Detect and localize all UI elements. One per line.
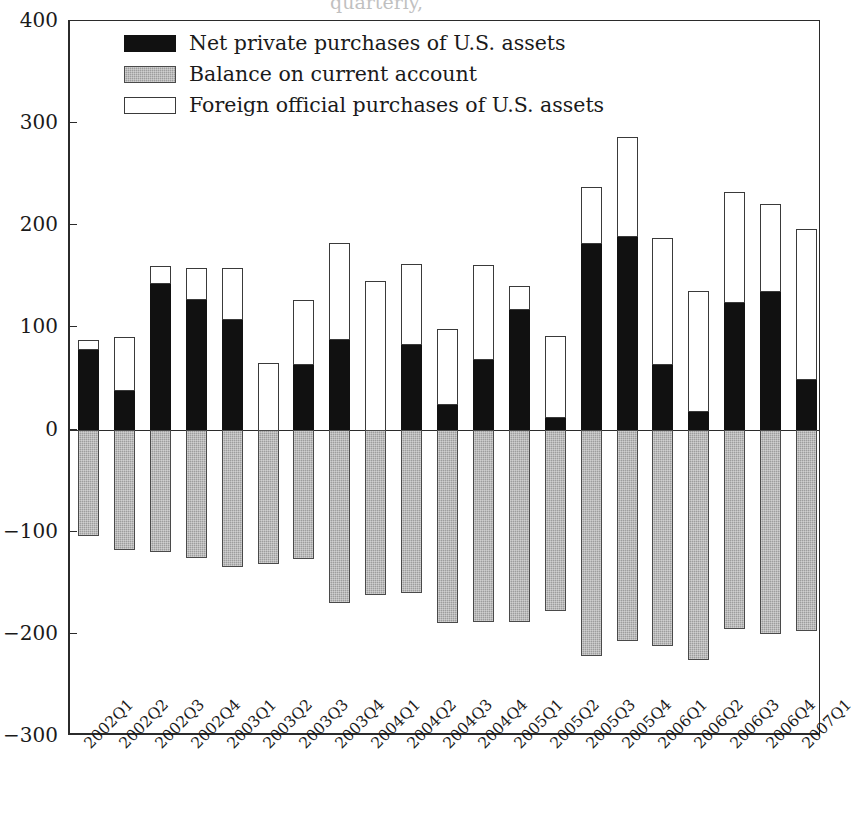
bar-segment-net-private: [150, 284, 171, 430]
legend-label: Net private purchases of U.S. assets: [189, 33, 566, 54]
bar-group: [293, 21, 314, 733]
bar-segment-current-account: [724, 430, 745, 629]
bar-segment-foreign-official: [293, 300, 314, 365]
bar-group: [401, 21, 422, 733]
bar-segment-net-private: [329, 340, 350, 430]
bar-segment-current-account: [581, 430, 602, 657]
bar-group: [78, 21, 99, 733]
white-outlined-swatch: [124, 97, 176, 114]
bar-segment-current-account: [473, 430, 494, 622]
y-tick-label: 400: [0, 10, 58, 30]
bar-segment-current-account: [186, 430, 207, 559]
bar-group: [329, 21, 350, 733]
bar-segment-current-account: [796, 430, 817, 631]
bar-segment-current-account: [437, 430, 458, 623]
bar-group: [688, 21, 709, 733]
plot-area: [68, 20, 820, 735]
bar-segment-foreign-official: [796, 229, 817, 379]
bar-segment-foreign-official: [78, 340, 99, 350]
bar-group: [150, 21, 171, 733]
bar-segment-net-private: [760, 292, 781, 430]
bar-segment-net-private: [473, 360, 494, 429]
bar-segment-net-private: [509, 310, 530, 430]
bar-segment-net-private: [581, 244, 602, 430]
bar-segment-foreign-official: [581, 187, 602, 243]
bar-segment-net-private: [78, 350, 99, 430]
bar-segment-net-private: [186, 300, 207, 430]
bar-segment-net-private: [652, 365, 673, 429]
bar-segment-current-account: [545, 430, 566, 612]
bar-segment-foreign-official: [473, 265, 494, 360]
bar-group: [509, 21, 530, 733]
bar-group: [617, 21, 638, 733]
bar-segment-current-account: [401, 430, 422, 593]
y-tick-label: 300: [0, 112, 58, 132]
y-tick-label: −100: [0, 521, 58, 541]
bar-segment-net-private: [437, 405, 458, 430]
black-filled-swatch: [124, 35, 176, 52]
bar-segment-net-private: [114, 391, 135, 430]
bar-segment-net-private: [617, 237, 638, 430]
bar-segment-current-account: [652, 430, 673, 647]
bar-segment-net-private: [293, 365, 314, 429]
legend-item-current-account: Balance on current account: [124, 59, 554, 90]
bar-group: [724, 21, 745, 733]
bar-segment-foreign-official: [401, 264, 422, 345]
bar-segment-current-account: [150, 430, 171, 553]
bar-segment-foreign-official: [329, 243, 350, 340]
bar-segment-foreign-official: [545, 336, 566, 419]
bar-group: [365, 21, 386, 733]
bar-group: [760, 21, 781, 733]
bar-segment-current-account: [365, 430, 386, 595]
bar-segment-current-account: [617, 430, 638, 641]
y-tick-label: 200: [0, 214, 58, 234]
bar-segment-net-private: [545, 418, 566, 429]
bar-group: [796, 21, 817, 733]
bar-segment-current-account: [329, 430, 350, 604]
bar-segment-foreign-official: [688, 291, 709, 413]
legend-item-foreign-official: Foreign official purchases of U.S. asset…: [124, 90, 554, 121]
bar-segment-current-account: [293, 430, 314, 560]
bar-segment-current-account: [258, 430, 279, 565]
bar-segment-foreign-official: [258, 363, 279, 435]
bar-segment-current-account: [688, 430, 709, 661]
bar-segment-net-private: [401, 345, 422, 430]
bar-segment-foreign-official: [617, 137, 638, 236]
y-tick-label: 100: [0, 316, 58, 336]
bar-segment-foreign-official: [437, 329, 458, 405]
bar-segment-net-private: [796, 380, 817, 430]
bar-group: [437, 21, 458, 733]
bar-segment-net-private: [724, 303, 745, 430]
bar-group: [258, 21, 279, 733]
bar-group: [581, 21, 602, 733]
bar-group: [114, 21, 135, 733]
gray-hatched-swatch: [124, 66, 176, 83]
y-tick-label: −300: [0, 725, 58, 745]
bar-segment-current-account: [114, 430, 135, 551]
bar-group: [473, 21, 494, 733]
bar-segment-current-account: [222, 430, 243, 568]
bar-segment-net-private: [688, 412, 709, 429]
bar-segment-foreign-official: [760, 204, 781, 292]
bar-segment-foreign-official: [114, 337, 135, 391]
legend-label: Foreign official purchases of U.S. asset…: [189, 95, 604, 116]
chart-legend: Net private purchases of U.S. assets Bal…: [124, 28, 554, 121]
bar-group: [222, 21, 243, 733]
bar-group: [186, 21, 207, 733]
legend-item-net-private: Net private purchases of U.S. assets: [124, 28, 554, 59]
bar-group: [545, 21, 566, 733]
bar-segment-net-private: [222, 320, 243, 429]
bar-segment-current-account: [760, 430, 781, 634]
y-tick-label: −200: [0, 623, 58, 643]
bar-segment-foreign-official: [186, 268, 207, 300]
clipped-title-remnant: quarterly,: [330, 0, 423, 13]
bar-group: [652, 21, 673, 733]
bar-segment-foreign-official: [509, 286, 530, 311]
bar-segment-current-account: [78, 430, 99, 536]
legend-label: Balance on current account: [189, 64, 477, 85]
bar-segment-current-account: [509, 430, 530, 622]
bar-segment-foreign-official: [652, 238, 673, 366]
bar-segment-foreign-official: [724, 192, 745, 303]
bar-segment-foreign-official: [150, 266, 171, 283]
